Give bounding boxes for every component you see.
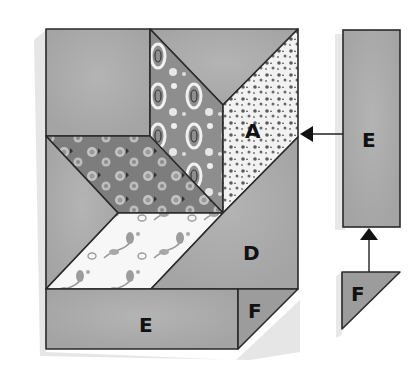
arrow-up bbox=[360, 228, 378, 272]
label-f-corner: F bbox=[248, 299, 262, 323]
top-left-square bbox=[46, 29, 150, 136]
label-f-side: F bbox=[351, 282, 365, 306]
arrowhead-left-icon bbox=[300, 126, 313, 142]
side-triangle-shadow bbox=[336, 272, 342, 338]
label-e-bottom: E bbox=[139, 313, 153, 337]
label-e-side: E bbox=[362, 128, 376, 152]
quilt-assembly-diagram: A D E F E F bbox=[0, 0, 416, 389]
arrowhead-up-icon bbox=[360, 228, 378, 240]
label-d: D bbox=[243, 241, 260, 265]
label-a: A bbox=[245, 119, 261, 143]
